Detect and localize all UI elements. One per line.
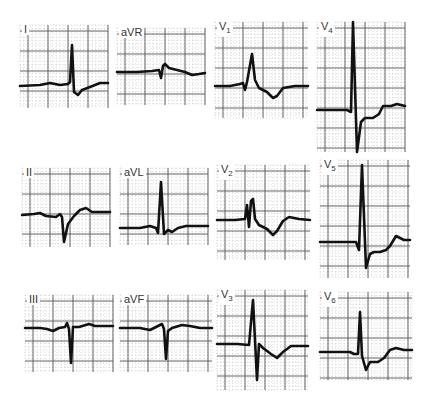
ecg-grid-and-trace [25,295,113,372]
ecg-trace [320,312,412,370]
lead-panel-avl: aVL [120,168,208,245]
lead-panel-v2: V2 [217,165,310,260]
lead-subscript: 5 [331,164,335,173]
ecg-trace [25,323,113,363]
lead-panel-v3: V3 [217,290,308,390]
ecg-trace [217,300,308,380]
lead-label: V1 [217,20,233,37]
ecg-grid-and-trace [117,28,205,105]
lead-subscript: 2 [228,169,232,178]
lead-name: aVR [121,26,142,38]
lead-panel-v5: V5 [320,160,410,278]
lead-panel-iii: III [25,295,113,372]
lead-label: V3 [219,288,235,305]
lead-panel-v4: V4 [317,22,405,152]
lead-panel-v1: V1 [215,22,308,118]
ecg-trace [215,54,308,98]
lead-label: aVL [122,166,146,178]
lead-name: aVL [124,166,144,178]
lead-subscript: 3 [228,294,232,303]
ecg-trace [317,22,405,152]
ecg-grid-and-trace [120,295,212,372]
lead-label: V2 [219,163,235,180]
ecg-grid-and-trace [317,22,405,152]
lead-panel-avr: aVR [117,28,205,105]
lead-name: II [26,166,32,178]
ecg-trace [120,324,212,359]
ecg-grid-and-trace [120,168,208,245]
ecg-grid-and-trace [22,168,110,247]
lead-name: III [29,293,38,305]
lead-panel-avf: aVF [120,295,212,372]
lead-subscript: 6 [331,296,335,305]
lead-label: V5 [322,158,338,175]
lead-label: III [27,293,40,305]
lead-panel-i: I [20,25,108,108]
ecg-grid-and-trace [20,25,108,108]
lead-name: aVF [124,293,144,305]
lead-label: II [24,166,34,178]
lead-subscript: 1 [226,26,230,35]
lead-panel-ii: II [22,168,110,247]
lead-label: aVF [122,293,146,305]
lead-label: I [22,23,29,35]
lead-label: V4 [319,20,335,37]
lead-subscript: 4 [328,26,332,35]
ecg-grid-and-trace [320,160,410,278]
ecg-trace [217,199,310,235]
lead-panel-v6: V6 [320,292,412,380]
ecg-trace [320,165,410,268]
lead-label: aVR [119,26,144,38]
lead-label: V6 [322,290,338,307]
ecg-trace [117,64,205,78]
lead-name: I [24,23,27,35]
